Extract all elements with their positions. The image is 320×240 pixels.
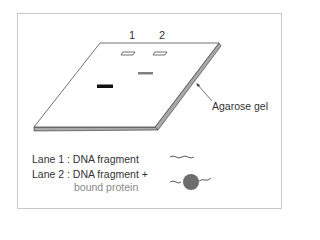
legend-lane-2-subtext: bound protein [74,182,138,193]
gel-front-edge [34,127,158,131]
dna-left-strand [170,181,181,183]
dna-fragment-icon [170,156,194,158]
well-lane-1 [121,52,135,55]
legend-lane-1: Lane 1 : DNA fragment [32,154,139,165]
lane-2-label: 2 [159,30,165,41]
dna-right-strand [199,178,211,181]
band-free-dna [97,85,113,89]
agarose-gel-label: Agarose gel [212,101,268,112]
lane-1-label: 1 [129,30,135,41]
legend-lane-2: Lane 2 : DNA fragment + [32,169,148,180]
bound-protein-icon [183,174,199,190]
gel-pointer-line [197,84,212,101]
well-lane-2 [153,52,167,55]
band-bound-protein [138,72,153,75]
